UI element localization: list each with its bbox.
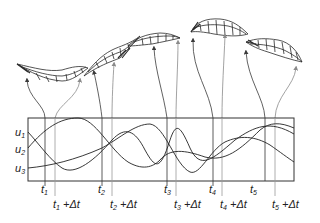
arrow-t5 — [246, 52, 265, 118]
signal-curves — [28, 118, 294, 172]
label-t5: t5 — [250, 184, 257, 196]
curve-u3 — [28, 124, 294, 172]
arrow-t1 — [27, 80, 45, 118]
label-t2: t2 — [98, 184, 105, 196]
label-t1: t1 — [41, 184, 48, 196]
label-t4: t4 — [209, 184, 216, 196]
signal-plot-box — [28, 118, 294, 181]
label-t2-plus-dt: t2 +Δt — [110, 199, 137, 211]
label-t5-plus-dt: t5 +Δt — [272, 199, 299, 211]
arrow-t1dt — [55, 80, 80, 118]
label-t3-plus-dt: t3 +Δt — [174, 199, 201, 211]
pose-5-wireframe — [246, 39, 302, 62]
arrow-t2 — [94, 72, 102, 118]
arrow-t4 — [193, 40, 213, 118]
label-t1-plus-dt: t1 +Δt — [53, 199, 80, 211]
arrow-t4dt — [222, 36, 225, 118]
label-t4-plus-dt: t4 +Δt — [220, 199, 247, 211]
label-u3: u3 — [15, 163, 25, 175]
label-u1: u1 — [15, 127, 25, 139]
mapping-arrows — [27, 36, 296, 118]
arrow-t3 — [154, 48, 167, 118]
pose-3-wireframe — [128, 33, 180, 46]
arrow-t3dt — [176, 42, 178, 118]
pose-2-wireframe — [84, 36, 140, 76]
diagram-canvas — [0, 0, 320, 223]
label-t3: t3 — [164, 184, 171, 196]
curve-u2 — [28, 118, 294, 167]
pose-4-wireframe — [191, 19, 248, 36]
label-u2: u2 — [15, 144, 25, 156]
pose-1-wireframe — [17, 64, 88, 82]
arrow-t2dt — [112, 64, 114, 118]
arrow-t5dt — [275, 68, 296, 118]
